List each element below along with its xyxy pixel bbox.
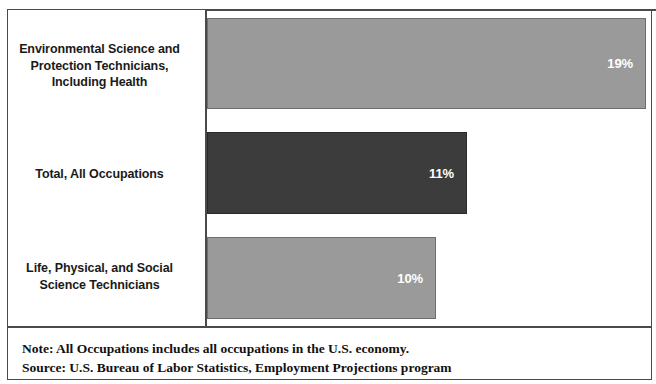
footnote-divider — [8, 326, 652, 328]
bar-chart-figure: Environmental Science and Protection Tec… — [0, 0, 656, 384]
category-label-life-physical-social-science: Life, Physical, and Social Science Techn… — [8, 227, 197, 326]
bar-value-label: 10% — [397, 271, 423, 286]
bar-environmental-science: 19% — [207, 18, 646, 109]
chart-row: Total, All Occupations 11% — [8, 122, 651, 227]
category-label-line: Protection Technicians, — [31, 59, 169, 73]
bar-track: 19% — [207, 10, 651, 122]
category-label-line: Environmental Science and — [19, 42, 180, 56]
bar-value-label: 11% — [429, 166, 454, 181]
footnote-note: Note: All Occupations includes all occup… — [22, 339, 642, 358]
category-label-line: Including Health — [52, 75, 148, 89]
chart-row: Life, Physical, and Social Science Techn… — [8, 227, 651, 326]
bar-total-all-occupations: 11% — [207, 132, 467, 214]
plot-area: Environmental Science and Protection Tec… — [8, 10, 651, 326]
category-label-line: Life, Physical, and Social — [26, 261, 173, 275]
bar-value-label: 19% — [607, 56, 633, 71]
category-label-environmental-science: Environmental Science and Protection Tec… — [8, 10, 197, 122]
category-label-total-all-occupations: Total, All Occupations — [8, 122, 197, 227]
footnotes: Note: All Occupations includes all occup… — [22, 339, 642, 377]
bar-life-physical-social-science: 10% — [207, 237, 436, 319]
chart-row: Environmental Science and Protection Tec… — [8, 10, 651, 122]
category-label-line: Science Technicians — [39, 278, 159, 292]
bar-track: 11% — [207, 122, 651, 227]
bar-track: 10% — [207, 227, 651, 326]
category-label-line: Total, All Occupations — [35, 166, 163, 183]
footnote-source: Source: U.S. Bureau of Labor Statistics,… — [22, 358, 642, 377]
